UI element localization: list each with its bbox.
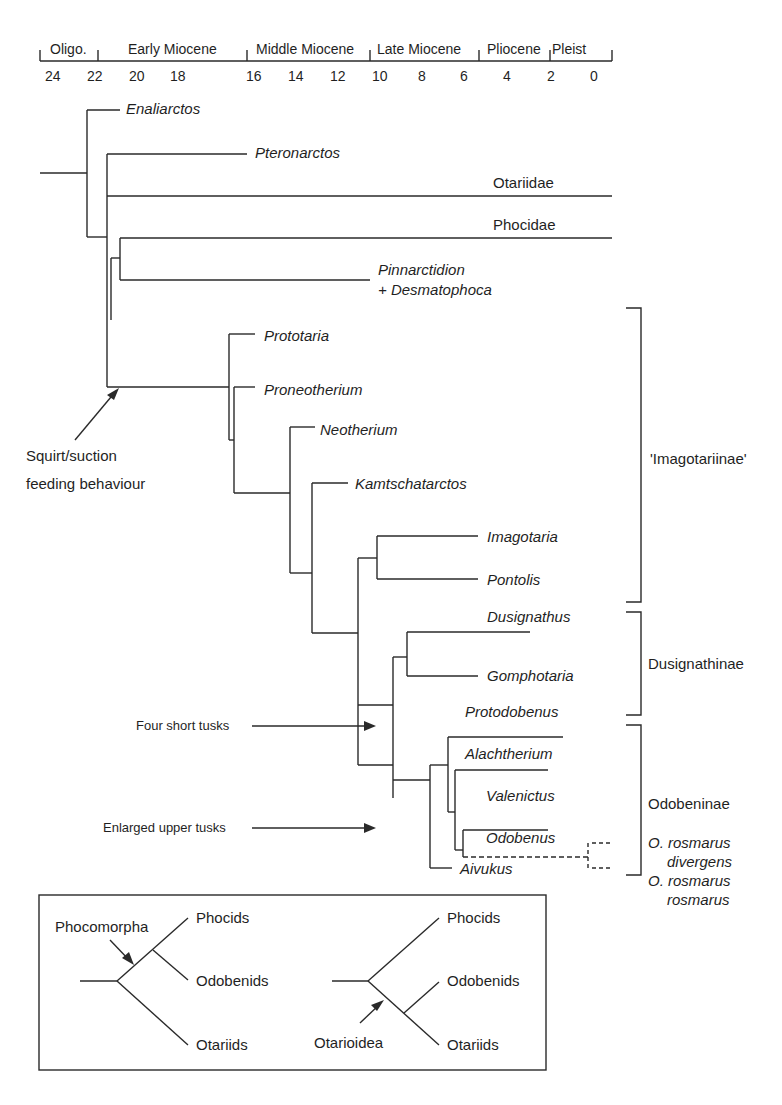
taxon-label: Gomphotaria (487, 667, 574, 685)
time-tick: 6 (460, 67, 468, 85)
time-tick: 0 (590, 67, 598, 85)
taxon-label: Kamtschatarctos (355, 475, 467, 493)
time-tick: 2 (547, 67, 555, 85)
epoch-label: Pleist (552, 40, 586, 58)
time-tick: 20 (129, 67, 145, 85)
annotation-squirt-feeding: feeding behaviour (26, 475, 145, 493)
taxon-label: Odobenus (486, 829, 555, 847)
time-tick: 10 (372, 67, 388, 85)
time-tick: 24 (45, 67, 61, 85)
clade-label-imagotariinae: 'Imagotariinae' (650, 450, 747, 468)
time-tick: 8 (418, 67, 426, 85)
inset-tip-label: Odobenids (447, 972, 520, 990)
taxon-label: Neotherium (320, 421, 398, 439)
taxon-label: Pontolis (487, 571, 540, 589)
subspecies-label: divergens (667, 853, 732, 871)
inset-tip-label: Otariids (447, 1036, 499, 1054)
taxon-label: Aivukus (460, 860, 513, 878)
annotation-squirt-feeding: Squirt/suction (26, 447, 117, 465)
epoch-label: Late Miocene (377, 40, 461, 58)
annotation-four-short-tusks: Four short tusks (136, 717, 229, 735)
epoch-label: Oligo. (50, 40, 87, 58)
time-tick: 16 (246, 67, 262, 85)
time-tick: 18 (170, 67, 186, 85)
pinniped-cladogram-figure: Oligo. Early Miocene Middle Miocene Late… (0, 0, 782, 1105)
subspecies-label: rosmarus (667, 891, 730, 909)
time-tick: 4 (503, 67, 511, 85)
inset-tip-label: Phocids (447, 909, 500, 927)
subspecies-label: O. rosmarus (648, 872, 731, 890)
taxon-label: Valenictus (486, 787, 555, 805)
taxon-label: + Desmatophoca (378, 281, 492, 299)
time-tick: 22 (87, 67, 103, 85)
taxon-label: Protodobenus (465, 703, 558, 721)
time-tick: 14 (288, 67, 304, 85)
clade-brackets (626, 308, 641, 875)
taxon-label: Pteronarctos (255, 144, 340, 162)
taxon-label: Imagotaria (487, 528, 558, 546)
clade-label-dusignathinae: Dusignathinae (648, 655, 744, 673)
taxon-label: Enaliarctos (126, 100, 200, 118)
clade-label-odobeninae: Odobeninae (648, 795, 730, 813)
time-tick: 12 (330, 67, 346, 85)
annotation-enlarged-upper-tusks: Enlarged upper tusks (103, 819, 226, 837)
epoch-label: Pliocene (487, 40, 541, 58)
taxon-label: Phocidae (493, 216, 556, 234)
annotation-arrows (75, 388, 376, 833)
inset-node-label-phocomorpha: Phocomorpha (55, 918, 148, 936)
taxon-label: Pinnarctidion (378, 261, 465, 279)
epoch-label: Middle Miocene (256, 40, 354, 58)
cladogram-lines (0, 0, 782, 1105)
taxon-label: Dusignathus (487, 608, 570, 626)
taxon-label: Alachtherium (465, 745, 553, 763)
inset-tip-label: Phocids (196, 909, 249, 927)
subspecies-label: O. rosmarus (648, 834, 731, 852)
taxon-label: Prototaria (264, 327, 329, 345)
taxon-label: Otariidae (493, 174, 554, 192)
taxon-label: Proneotherium (264, 381, 362, 399)
inset-node-label-otarioidea: Otarioidea (314, 1034, 383, 1052)
inset-tip-label: Otariids (196, 1036, 248, 1054)
inset-tip-label: Odobenids (196, 972, 269, 990)
epoch-label: Early Miocene (128, 40, 217, 58)
